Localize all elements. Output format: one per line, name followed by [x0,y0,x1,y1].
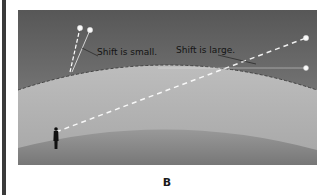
left-border-bar [2,0,6,195]
far-star-icon [303,35,310,42]
large-shift-label: Shift is large. [176,45,235,55]
illustration-canvas: Shift is small. Shift is large. [18,10,317,165]
near-star-icon [87,27,94,34]
figure-caption: B [0,176,334,189]
parallax-illustration: Shift is small. Shift is large. [18,10,317,165]
near-star-icon [77,25,84,32]
far-star-icon [303,65,309,71]
small-shift-label: Shift is small. [97,47,157,57]
